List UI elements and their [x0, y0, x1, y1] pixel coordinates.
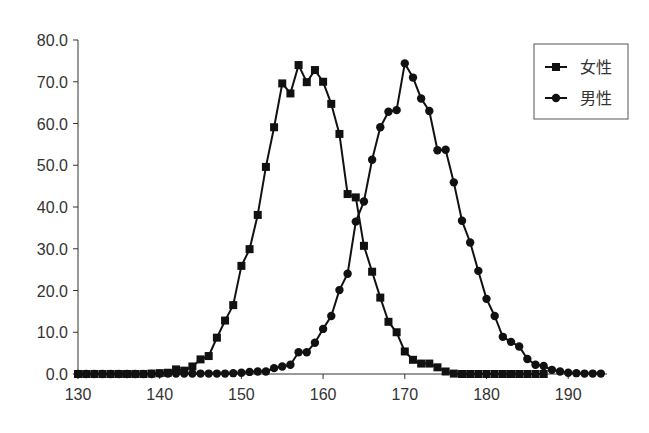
legend-label-female: 女性	[580, 58, 612, 77]
circle-marker-icon	[294, 348, 302, 356]
circle-marker-icon	[196, 369, 204, 377]
circle-marker-icon	[131, 370, 139, 378]
circle-marker-icon	[539, 362, 547, 370]
square-marker-icon	[458, 370, 466, 378]
square-marker-icon	[393, 328, 401, 336]
series-male	[74, 59, 605, 378]
circle-marker-icon	[482, 295, 490, 303]
circle-marker-icon	[205, 369, 213, 377]
circle-marker-icon	[147, 370, 155, 378]
series-female	[74, 61, 548, 378]
plot-area	[74, 59, 605, 378]
x-tick-label: 180	[473, 386, 500, 403]
square-marker-icon	[401, 347, 409, 355]
square-marker-icon	[483, 370, 491, 378]
square-marker-icon	[188, 362, 196, 370]
square-marker-icon	[229, 301, 237, 309]
square-marker-icon	[507, 370, 515, 378]
x-axis: 130140150160170180190	[65, 374, 607, 403]
circle-marker-icon	[433, 146, 441, 154]
circle-marker-icon	[352, 217, 360, 225]
circle-marker-icon	[286, 361, 294, 369]
circle-marker-icon	[156, 369, 164, 377]
y-tick-label: 70.0	[37, 74, 68, 91]
y-tick-label: 80.0	[37, 32, 68, 49]
circle-marker-icon	[466, 238, 474, 246]
y-tick-label: 10.0	[37, 324, 68, 341]
y-tick-label: 50.0	[37, 157, 68, 174]
y-tick-label: 40.0	[37, 199, 68, 216]
x-tick-label: 160	[310, 386, 337, 403]
circle-marker-icon	[123, 370, 131, 378]
circle-marker-icon	[229, 369, 237, 377]
y-tick-label: 30.0	[37, 241, 68, 258]
circle-marker-icon	[303, 348, 311, 356]
circle-marker-icon	[552, 94, 560, 102]
circle-marker-icon	[458, 217, 466, 225]
circle-marker-icon	[441, 146, 449, 154]
square-marker-icon	[213, 334, 221, 342]
circle-marker-icon	[98, 370, 106, 378]
legend: 女性 男性	[534, 44, 628, 119]
square-marker-icon	[295, 61, 303, 69]
square-marker-icon	[262, 163, 270, 171]
circle-marker-icon	[82, 370, 90, 378]
circle-marker-icon	[368, 156, 376, 164]
circle-marker-icon	[597, 369, 605, 377]
circle-marker-icon	[499, 333, 507, 341]
circle-marker-icon	[139, 370, 147, 378]
circle-marker-icon	[245, 368, 253, 376]
square-marker-icon	[278, 79, 286, 87]
x-tick-label: 170	[391, 386, 418, 403]
circle-marker-icon	[164, 369, 172, 377]
square-marker-icon	[515, 370, 523, 378]
square-marker-icon	[197, 355, 205, 363]
circle-marker-icon	[278, 362, 286, 370]
square-marker-icon	[237, 262, 245, 270]
circle-marker-icon	[548, 366, 556, 374]
circle-marker-icon	[450, 178, 458, 186]
circle-marker-icon	[523, 355, 531, 363]
square-marker-icon	[474, 370, 482, 378]
square-marker-icon	[450, 370, 458, 378]
circle-marker-icon	[474, 267, 482, 275]
square-marker-icon	[327, 100, 335, 108]
square-marker-icon	[523, 370, 531, 378]
square-marker-icon	[286, 89, 294, 97]
square-marker-icon	[442, 367, 450, 375]
circle-marker-icon	[221, 369, 229, 377]
circle-marker-icon	[213, 369, 221, 377]
square-marker-icon	[360, 242, 368, 250]
circle-marker-icon	[188, 369, 196, 377]
circle-marker-icon	[237, 369, 245, 377]
square-marker-icon	[311, 66, 319, 74]
circle-marker-icon	[262, 367, 270, 375]
circle-marker-icon	[580, 369, 588, 377]
square-marker-icon	[344, 190, 352, 198]
square-marker-icon	[254, 211, 262, 219]
square-marker-icon	[376, 294, 384, 302]
x-tick-label: 140	[146, 386, 173, 403]
square-marker-icon	[433, 363, 441, 371]
circle-marker-icon	[556, 367, 564, 375]
square-marker-icon	[335, 130, 343, 138]
series-line	[78, 65, 544, 374]
square-marker-icon	[552, 63, 560, 71]
circle-marker-icon	[425, 107, 433, 115]
circle-marker-icon	[392, 106, 400, 114]
square-marker-icon	[540, 370, 548, 378]
circle-marker-icon	[384, 108, 392, 116]
y-axis: 0.010.020.030.040.050.060.070.080.0	[37, 32, 78, 383]
circle-marker-icon	[343, 270, 351, 278]
circle-marker-icon	[90, 370, 98, 378]
y-tick-label: 60.0	[37, 116, 68, 133]
circle-marker-icon	[572, 369, 580, 377]
circle-marker-icon	[531, 361, 539, 369]
square-marker-icon	[491, 370, 499, 378]
circle-marker-icon	[360, 197, 368, 205]
circle-marker-icon	[417, 94, 425, 102]
square-marker-icon	[499, 370, 507, 378]
square-marker-icon	[532, 370, 540, 378]
circle-marker-icon	[311, 338, 319, 346]
line-chart: 0.010.020.030.040.050.060.070.080.0 1301…	[0, 0, 649, 433]
